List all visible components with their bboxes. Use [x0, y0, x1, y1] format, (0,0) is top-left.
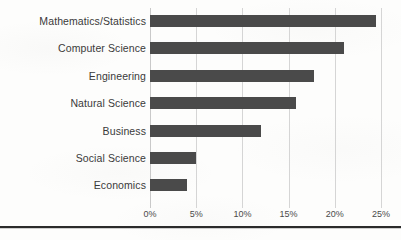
bar-row [150, 90, 381, 117]
bar [150, 125, 261, 137]
category-label: Mathematics/Statistics [39, 8, 146, 35]
category-label: Business [103, 118, 146, 145]
x-tick-label: 15% [280, 209, 298, 219]
x-tick-label: 10% [233, 209, 251, 219]
x-tick-label: 20% [326, 209, 344, 219]
bar-chart-figure: Mathematics/StatisticsComputer ScienceEn… [0, 0, 401, 240]
bars-layer [150, 8, 381, 208]
bar [150, 15, 376, 27]
category-label: Social Science [76, 145, 146, 172]
category-label: Computer Science [58, 35, 146, 62]
plot-area [150, 8, 381, 208]
category-label: Economics [94, 172, 146, 199]
bar [150, 97, 296, 109]
bar-row [150, 145, 381, 172]
bar-row [150, 172, 381, 199]
bar [150, 179, 187, 191]
bar-row [150, 35, 381, 62]
bar-row [150, 8, 381, 35]
bar-row [150, 118, 381, 145]
x-tick-label: 0% [143, 209, 156, 219]
bar-row [150, 63, 381, 90]
bar [150, 152, 196, 164]
category-axis-labels: Mathematics/StatisticsComputer ScienceEn… [0, 8, 146, 208]
category-label: Natural Science [70, 90, 146, 117]
bar [150, 42, 344, 54]
x-axis-tick-labels: 0%5%10%15%20%25% [150, 209, 381, 225]
bottom-divider-shadow [0, 228, 401, 229]
gridline-25% [381, 8, 382, 208]
category-label: Engineering [89, 63, 146, 90]
x-tick-label: 5% [190, 209, 203, 219]
bar [150, 70, 314, 82]
x-tick-label: 25% [372, 209, 390, 219]
